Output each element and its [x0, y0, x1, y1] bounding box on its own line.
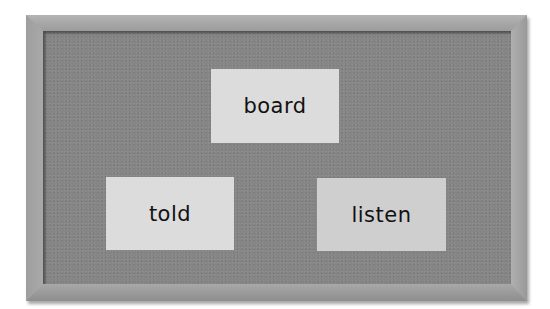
word-card-label: told	[149, 202, 191, 226]
frame-bottom-edge	[26, 284, 527, 301]
word-card-label: board	[243, 94, 306, 118]
frame-top-edge	[26, 15, 527, 31]
word-card-label: listen	[351, 203, 411, 227]
word-card-listen[interactable]: listen	[317, 178, 446, 251]
frame-right-edge	[511, 15, 527, 301]
frame-left-edge	[26, 15, 43, 301]
bulletin-board-frame	[26, 15, 527, 301]
word-card-told[interactable]: told	[106, 177, 234, 250]
word-card-board[interactable]: board	[211, 69, 339, 143]
